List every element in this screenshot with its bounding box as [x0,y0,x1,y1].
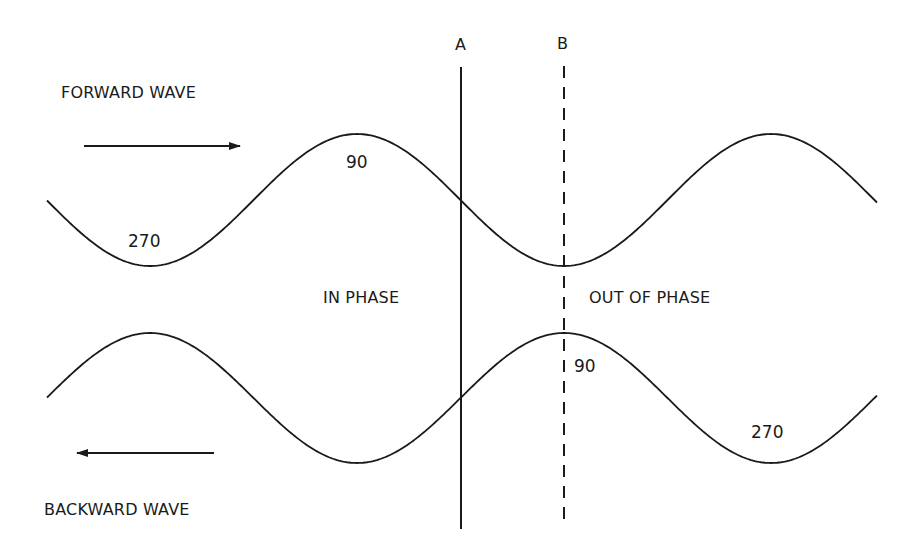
in-phase-label: IN PHASE [323,290,399,306]
forward-trough-phase-label: 270 [128,233,160,250]
forward-wave-label: FORWARD WAVE [61,85,196,101]
marker-b-label: B [557,36,568,52]
out-of-phase-label: OUT OF PHASE [589,290,710,306]
forward-peak-phase-label: 90 [346,154,368,171]
backward-wave-label: BACKWARD WAVE [44,502,190,518]
marker-a-label: A [455,37,466,53]
backward-peak-phase-label: 90 [574,358,596,375]
backward-trough-phase-label: 270 [751,424,783,441]
